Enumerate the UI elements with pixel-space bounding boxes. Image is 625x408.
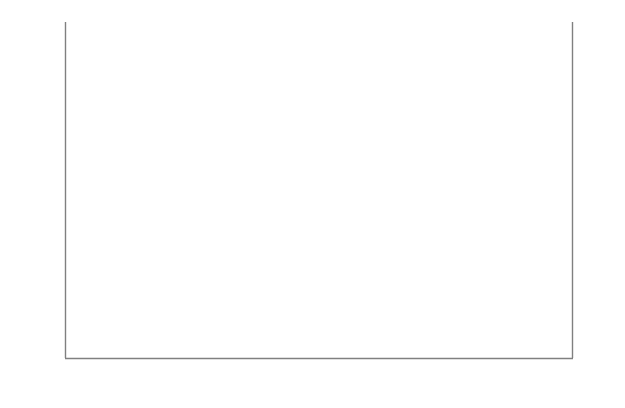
probability-plot-chart (0, 0, 625, 408)
plot-canvas (0, 0, 625, 408)
axis-lines (65, 22, 573, 359)
